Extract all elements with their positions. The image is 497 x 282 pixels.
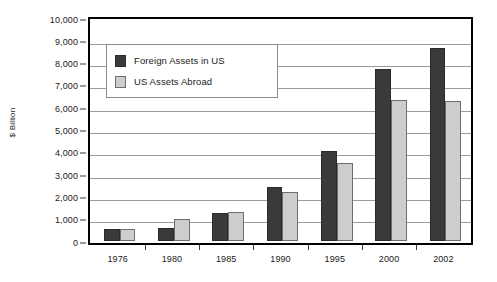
x-axis-tick-label: 1990 (270, 254, 290, 264)
y-axis-tick-label: 6,000 (55, 104, 78, 114)
x-axis-tick (199, 245, 200, 250)
x-axis-tick-label: 2002 (433, 254, 453, 264)
bar-chart: $ Billion 01,0002,0003,0004,0005,0006,00… (0, 0, 497, 282)
bar-group (321, 22, 352, 241)
y-axis-tick-label: 5,000 (55, 126, 78, 136)
x-axis-tick-label: 1995 (325, 254, 345, 264)
legend-label: US Assets Abroad (134, 76, 212, 87)
y-axis-tick (80, 197, 86, 198)
y-axis-tick-label: 2,000 (55, 193, 78, 203)
y-axis-tick-label: 4,000 (55, 148, 78, 158)
y-axis-tick-label: 8,000 (55, 59, 78, 69)
bar (104, 229, 120, 240)
y-axis-tick-label: 10,000 (50, 15, 78, 25)
bar (391, 100, 407, 240)
legend-swatch-icon (115, 76, 126, 88)
y-axis-tick-label: 7,000 (55, 81, 78, 91)
y-axis-tick (80, 175, 86, 176)
y-axis-tick-label: 3,000 (55, 171, 78, 181)
y-axis-tick-label: 9,000 (55, 37, 78, 47)
x-axis-tick-label: 2000 (379, 254, 399, 264)
bar (445, 101, 461, 240)
y-axis-tick (80, 19, 86, 20)
legend-item-us-assets-abroad: US Assets Abroad (115, 71, 269, 92)
bar-group (430, 22, 461, 241)
x-axis-tick-label: 1985 (216, 254, 236, 264)
x-axis-tick-labels: 1976198019851990199520002002 (88, 254, 473, 272)
bar (282, 192, 298, 241)
y-axis-tick-label: 0 (73, 238, 78, 248)
legend-swatch-icon (115, 55, 126, 67)
y-axis-tick (80, 153, 86, 154)
bar (212, 213, 228, 241)
x-axis-tick (416, 245, 417, 250)
x-axis-tick (145, 245, 146, 250)
bar (267, 187, 283, 241)
x-axis-tick (253, 245, 254, 250)
x-axis-tick (362, 245, 363, 250)
bar (228, 212, 244, 241)
y-axis-tick-labels: 01,0002,0003,0004,0005,0006,0007,0008,00… (0, 17, 86, 245)
x-axis-tick (308, 245, 309, 250)
y-axis-tick (80, 220, 86, 221)
y-axis-tick (80, 131, 86, 132)
legend-label: Foreign Assets in US (134, 55, 225, 66)
y-axis-tick (80, 41, 86, 42)
legend-item-foreign-assets-in-us: Foreign Assets in US (115, 50, 269, 71)
legend: Foreign Assets in US US Assets Abroad (106, 44, 278, 98)
bar (430, 48, 446, 241)
y-axis-tick (80, 64, 86, 65)
y-axis-tick (80, 86, 86, 87)
bar (375, 69, 391, 241)
bar (158, 228, 174, 241)
x-axis-tick-label: 1980 (162, 254, 182, 264)
y-axis-tick (80, 108, 86, 109)
y-axis-tick (80, 242, 86, 243)
bar (337, 163, 353, 241)
x-axis-tick-label: 1976 (107, 254, 127, 264)
bar (120, 229, 136, 240)
x-axis-ticks (88, 245, 473, 251)
bar (321, 151, 337, 240)
bar (174, 219, 190, 240)
bar-group (375, 22, 406, 241)
y-axis-tick-label: 1,000 (55, 215, 78, 225)
